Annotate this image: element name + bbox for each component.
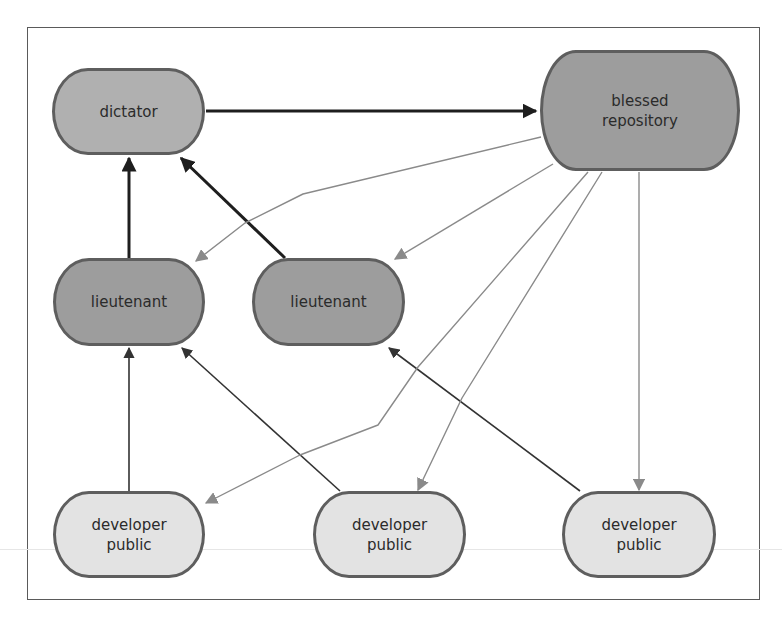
node-dictator[interactable]: dictator bbox=[52, 68, 205, 155]
node-label: developer public bbox=[601, 515, 676, 555]
node-label: lieutenant bbox=[91, 292, 167, 312]
node-label: developer public bbox=[352, 515, 427, 555]
node-developer3[interactable]: developer public bbox=[562, 491, 716, 578]
node-label: blessed repository bbox=[602, 91, 678, 131]
node-lieutenant2[interactable]: lieutenant bbox=[252, 258, 405, 346]
node-label: dictator bbox=[99, 102, 157, 122]
node-developer2[interactable]: developer public bbox=[313, 491, 466, 578]
node-label: lieutenant bbox=[290, 292, 366, 312]
node-blessed[interactable]: blessed repository bbox=[540, 50, 740, 171]
node-lieutenant1[interactable]: lieutenant bbox=[53, 258, 205, 346]
node-label: developer public bbox=[91, 515, 166, 555]
node-developer1[interactable]: developer public bbox=[53, 491, 205, 578]
